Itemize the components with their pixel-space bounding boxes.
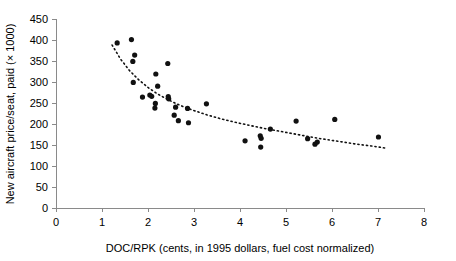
data-point [294,118,299,123]
data-point [132,53,137,58]
x-tick-label: 3 [191,216,197,228]
x-tick-label: 4 [237,216,243,228]
data-point [242,138,247,143]
x-axis-ticks [56,208,424,212]
x-tick-label: 7 [375,216,381,228]
data-point [140,95,145,100]
x-axis: 012345678 [53,208,427,228]
x-tick-label: 6 [329,216,335,228]
y-tick-label: 200 [30,118,48,130]
data-point [131,80,136,85]
data-point [268,126,273,131]
y-tick-label: 350 [30,55,48,67]
y-axis: 050100150200250300350400450 [30,13,56,214]
data-point [258,145,263,150]
data-point [176,118,181,123]
data-point [129,37,134,42]
y-tick-label: 100 [30,160,48,172]
data-point [204,101,209,106]
x-tick-label: 1 [99,216,105,228]
data-point [153,71,158,76]
data-point [305,136,310,141]
x-axis-title: DOC/RPK (cents, in 1995 dollars, fuel co… [106,242,374,254]
data-point [332,117,337,122]
x-tick-label: 2 [145,216,151,228]
x-tick-label: 5 [283,216,289,228]
data-point [185,106,190,111]
data-point [376,134,381,139]
chart-canvas: 050100150200250300350400450 012345678 DO… [0,0,456,261]
y-tick-label: 0 [42,202,48,214]
data-point [115,40,120,45]
data-point [172,113,177,118]
y-axis-title: New aircraft price/seat, paid (× 1000) [4,24,16,205]
y-tick-label: 250 [30,97,48,109]
x-tick-label: 0 [53,216,59,228]
data-point [130,59,135,64]
y-tick-label: 150 [30,139,48,151]
x-tick-label: 8 [421,216,427,228]
data-point [165,61,170,66]
data-point [166,96,171,101]
data-point [173,105,178,110]
y-tick-label: 400 [30,34,48,46]
data-point [315,139,320,144]
scatter-chart: 050100150200250300350400450 012345678 DO… [0,0,456,261]
y-tick-label: 50 [36,181,48,193]
y-axis-ticks [52,19,56,208]
y-tick-label: 450 [30,13,48,25]
data-point [153,101,158,106]
data-point [155,84,160,89]
data-point [149,94,154,99]
data-points-group [115,37,381,150]
y-axis-tick-labels: 050100150200250300350400450 [30,13,48,214]
data-point [186,120,191,125]
data-point [259,136,264,141]
x-axis-tick-labels: 012345678 [53,216,427,228]
y-tick-label: 300 [30,76,48,88]
data-point [152,105,157,110]
